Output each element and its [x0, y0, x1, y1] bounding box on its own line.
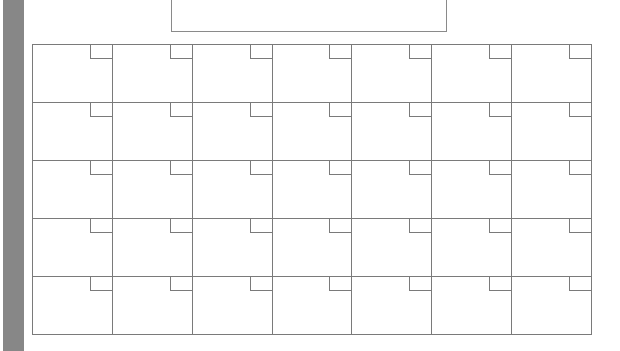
calendar-day-cell[interactable] [193, 45, 273, 103]
day-number-box [569, 45, 591, 59]
day-number-box [250, 45, 272, 59]
month-title-box[interactable] [171, 0, 447, 32]
day-number-box [409, 103, 431, 117]
calendar-day-cell[interactable] [113, 277, 193, 335]
calendar-day-cell[interactable] [33, 161, 113, 219]
calendar-day-cell[interactable] [512, 161, 592, 219]
day-number-box [329, 161, 351, 175]
day-number-box [329, 277, 351, 291]
calendar-day-cell[interactable] [33, 45, 113, 103]
calendar-day-cell[interactable] [273, 103, 353, 161]
day-number-box [489, 45, 511, 59]
calendar-grid [32, 44, 592, 335]
calendar-day-cell[interactable] [33, 277, 113, 335]
calendar-day-cell[interactable] [352, 219, 432, 277]
day-number-box [170, 219, 192, 233]
calendar-day-cell[interactable] [33, 103, 113, 161]
day-number-box [569, 219, 591, 233]
day-number-box [409, 45, 431, 59]
day-number-box [90, 161, 112, 175]
calendar-day-cell[interactable] [432, 103, 512, 161]
day-number-box [90, 277, 112, 291]
calendar-day-cell[interactable] [193, 103, 273, 161]
calendar-day-cell[interactable] [352, 103, 432, 161]
calendar-day-cell[interactable] [512, 219, 592, 277]
day-number-box [409, 219, 431, 233]
day-number-box [329, 103, 351, 117]
day-number-box [250, 219, 272, 233]
calendar-day-cell[interactable] [512, 103, 592, 161]
day-number-box [250, 103, 272, 117]
calendar-day-cell[interactable] [273, 45, 353, 103]
calendar-day-cell[interactable] [432, 45, 512, 103]
calendar-day-cell[interactable] [432, 219, 512, 277]
calendar-day-cell[interactable] [432, 161, 512, 219]
day-number-box [170, 161, 192, 175]
day-number-box [409, 161, 431, 175]
calendar-day-cell[interactable] [512, 45, 592, 103]
calendar-day-cell[interactable] [113, 219, 193, 277]
calendar-day-cell[interactable] [113, 103, 193, 161]
day-number-box [569, 161, 591, 175]
day-number-box [569, 103, 591, 117]
calendar-day-cell[interactable] [352, 161, 432, 219]
day-number-box [489, 277, 511, 291]
day-number-box [170, 277, 192, 291]
day-number-box [250, 277, 272, 291]
calendar-day-cell[interactable] [352, 277, 432, 335]
day-number-box [170, 103, 192, 117]
day-number-box [90, 45, 112, 59]
calendar-day-cell[interactable] [273, 277, 353, 335]
day-number-box [250, 161, 272, 175]
day-number-box [569, 277, 591, 291]
calendar-day-cell[interactable] [113, 161, 193, 219]
day-number-box [489, 103, 511, 117]
calendar-day-cell[interactable] [193, 219, 273, 277]
day-number-box [90, 219, 112, 233]
day-number-box [409, 277, 431, 291]
calendar-day-cell[interactable] [273, 161, 353, 219]
calendar-day-cell[interactable] [352, 45, 432, 103]
calendar-day-cell[interactable] [193, 277, 273, 335]
calendar-day-cell[interactable] [113, 45, 193, 103]
calendar-day-cell[interactable] [193, 161, 273, 219]
day-number-box [170, 45, 192, 59]
calendar-day-cell[interactable] [432, 277, 512, 335]
calendar-day-cell[interactable] [512, 277, 592, 335]
day-number-box [329, 45, 351, 59]
day-number-box [489, 219, 511, 233]
side-bar [3, 0, 24, 351]
day-number-box [329, 219, 351, 233]
calendar-day-cell[interactable] [33, 219, 113, 277]
day-number-box [90, 103, 112, 117]
calendar-day-cell[interactable] [273, 219, 353, 277]
day-number-box [489, 161, 511, 175]
